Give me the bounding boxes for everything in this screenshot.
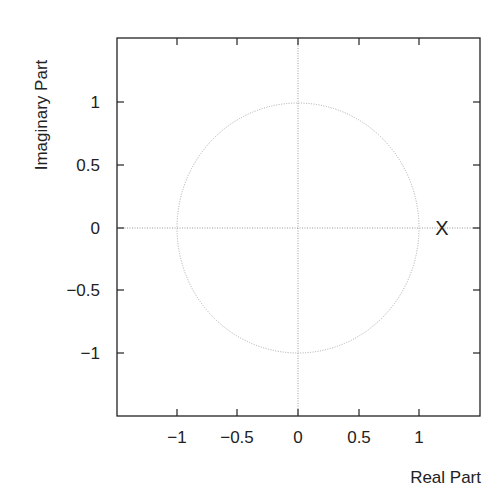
y-ticks — [117, 102, 480, 353]
x-tick-label: 0 — [293, 428, 302, 447]
x-tick-label: 1 — [414, 428, 423, 447]
plot-frame — [117, 38, 480, 416]
x-tick-label: −1 — [167, 428, 186, 447]
x-ticks — [177, 38, 419, 416]
x-tick-labels: −1 −0.5 0 0.5 1 — [167, 428, 423, 447]
y-tick-label: 0 — [91, 219, 100, 238]
x-tick-label: −0.5 — [220, 428, 254, 447]
y-tick-label: −1 — [81, 344, 100, 363]
x-axis-label: Real Part — [410, 468, 481, 487]
y-tick-labels: 1 0.5 0 −0.5 −1 — [66, 93, 100, 363]
pole-zero-plot: −1 −0.5 0 0.5 1 1 0.5 0 −0.5 −1 X Real P… — [0, 0, 499, 498]
y-tick-label: 0.5 — [76, 156, 100, 175]
pole-marker: X — [435, 217, 448, 239]
x-tick-label: 0.5 — [347, 428, 371, 447]
y-axis-label: Imaginary Part — [32, 59, 51, 170]
y-tick-label: 1 — [91, 93, 100, 112]
y-tick-label: −0.5 — [66, 281, 100, 300]
